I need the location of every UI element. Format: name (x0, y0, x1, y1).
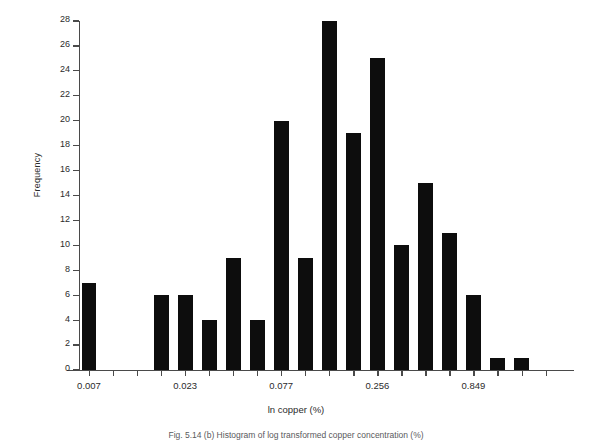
y-axis-tick: 18 (73, 145, 79, 146)
histogram-bar (514, 358, 529, 370)
histogram-bar (154, 295, 169, 370)
y-axis-tick: 20 (73, 120, 79, 121)
histogram-bar (322, 21, 337, 370)
y-axis-tick-label: 16 (60, 164, 70, 174)
y-axis-tick-label: 6 (65, 289, 70, 299)
histogram-bar (178, 295, 193, 370)
x-axis-tick-mark (425, 370, 426, 376)
y-axis-tick-label: 26 (60, 39, 70, 49)
y-axis-tick-label: 4 (65, 314, 70, 324)
y-axis-tick-mark (73, 45, 79, 46)
y-axis-tick-mark (73, 145, 79, 146)
figure-container: Frequency 0246810121416182022242628 0.00… (0, 0, 592, 440)
y-axis-tick-label: 12 (60, 214, 70, 224)
x-axis-tick-mark (89, 370, 90, 376)
y-axis-tick-mark (73, 120, 79, 121)
x-axis-tick-mark (449, 370, 450, 376)
x-axis-tick-mark (546, 370, 547, 376)
histogram-bar (274, 121, 289, 370)
histogram-bar (490, 358, 505, 370)
y-axis-tick: 24 (73, 70, 79, 71)
histogram-bar (418, 183, 433, 370)
x-axis-tick-mark (377, 370, 378, 376)
y-axis-tick-mark (73, 95, 79, 96)
y-axis-tick-label: 24 (60, 64, 70, 74)
y-axis-tick-label: 22 (60, 89, 70, 99)
y-axis-tick-mark (73, 20, 79, 21)
y-axis-tick-label: 28 (60, 14, 70, 24)
x-axis-tick-mark (353, 370, 354, 376)
x-axis-tick-label: 0.077 (269, 380, 293, 391)
y-axis-tick-mark (73, 220, 79, 221)
y-axis-tick: 26 (73, 45, 79, 46)
y-axis-tick-label: 2 (65, 338, 70, 348)
y-axis-tick-mark (73, 70, 79, 71)
y-axis-tick: 8 (73, 270, 79, 271)
x-axis-tick-label: 0.023 (173, 380, 197, 391)
figure-caption: Fig. 5.14 (b) Histogram of log transform… (0, 430, 592, 440)
x-axis-tick-mark (185, 370, 186, 376)
x-axis-tick-mark (209, 370, 210, 376)
y-axis-tick-mark (73, 320, 79, 321)
y-axis-tick: 12 (73, 220, 79, 221)
plot-area: 0246810121416182022242628 0.0070.0230.07… (79, 21, 574, 370)
x-axis-tick-mark (497, 370, 498, 376)
y-axis-tick-mark (73, 344, 79, 345)
histogram-bar (298, 258, 313, 370)
histogram-bar (202, 320, 217, 370)
y-axis-tick-label: 18 (60, 139, 70, 149)
y-axis-tick-label: 10 (60, 239, 70, 249)
y-axis-tick-label: 14 (60, 189, 70, 199)
x-axis-tick-mark (161, 370, 162, 376)
x-axis-tick-label: 0.256 (365, 380, 389, 391)
y-axis-tick: 22 (73, 95, 79, 96)
y-axis-tick-mark (73, 295, 79, 296)
y-axis-tick-label: 0 (65, 363, 70, 373)
y-axis-tick-mark (73, 170, 79, 171)
histogram-bar (82, 283, 97, 370)
x-axis-tick-mark (522, 370, 523, 376)
y-axis-tick-mark (73, 270, 79, 271)
x-axis-tick-mark (329, 370, 330, 376)
y-axis-tick: 10 (73, 245, 79, 246)
x-axis-tick-mark (473, 370, 474, 376)
histogram-bar (226, 258, 241, 370)
y-axis-tick: 4 (73, 320, 79, 321)
y-axis-line (79, 21, 80, 370)
y-axis-tick: 0 (73, 369, 79, 370)
y-axis-tick-mark (73, 369, 79, 370)
histogram-bar (250, 320, 265, 370)
histogram-bar (370, 58, 385, 370)
x-axis-tick-mark (137, 370, 138, 376)
y-axis-label: Frequency (32, 140, 42, 210)
histogram-bar (466, 295, 481, 370)
x-axis-tick-mark (281, 370, 282, 376)
x-axis-tick-label: 0.007 (77, 380, 101, 391)
y-axis-tick: 6 (73, 295, 79, 296)
x-axis-tick-mark (257, 370, 258, 376)
y-axis-tick: 14 (73, 195, 79, 196)
x-axis-tick-mark (305, 370, 306, 376)
y-axis-tick: 28 (73, 20, 79, 21)
histogram-bar (346, 133, 361, 370)
x-axis-tick-mark (233, 370, 234, 376)
y-axis-tick: 16 (73, 170, 79, 171)
y-axis-tick-label: 8 (65, 264, 70, 274)
x-axis-tick-mark (401, 370, 402, 376)
y-axis-tick-mark (73, 245, 79, 246)
x-axis-tick-mark (113, 370, 114, 376)
x-axis-tick-label: 0.849 (462, 380, 486, 391)
histogram-bar (394, 245, 409, 370)
x-axis-label: ln copper (%) (0, 404, 592, 415)
y-axis-tick-mark (73, 195, 79, 196)
y-axis-tick: 2 (73, 344, 79, 345)
histogram-bar (442, 233, 457, 370)
y-axis-tick-label: 20 (60, 114, 70, 124)
